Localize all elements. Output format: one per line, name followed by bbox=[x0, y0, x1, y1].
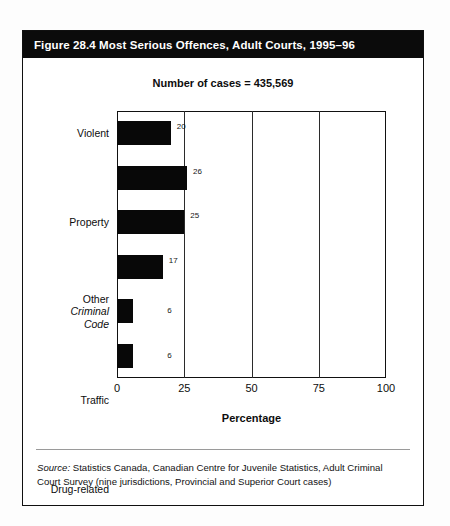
bar-value-label: 20 bbox=[177, 122, 186, 131]
x-axis-title: Percentage bbox=[117, 412, 386, 424]
source-divider bbox=[36, 449, 410, 450]
figure-title-bar: Figure 28.4 Most Serious Offences, Adult… bbox=[23, 31, 423, 58]
bar-traffic[interactable] bbox=[117, 255, 163, 279]
bar-violent[interactable] bbox=[117, 121, 171, 145]
x-tick-0: 0 bbox=[114, 382, 120, 394]
bar-value-label: 17 bbox=[169, 256, 178, 265]
bar-other-federal-status[interactable] bbox=[117, 344, 133, 368]
category-label-line: Code bbox=[17, 318, 109, 331]
bar-value-label: 6 bbox=[167, 306, 171, 315]
bar-row: 17Traffic bbox=[117, 245, 386, 290]
category-label-line: Criminal bbox=[17, 305, 109, 318]
chart-plot-area: 20Violent26Property25OtherCriminalCode17… bbox=[117, 111, 386, 378]
x-tick-100: 100 bbox=[377, 382, 395, 394]
bar-value-label: 25 bbox=[190, 211, 199, 220]
bar-row: 26Property bbox=[117, 156, 386, 201]
category-label-line: Violent bbox=[17, 127, 109, 140]
y-axis-label-violent: Violent bbox=[17, 127, 109, 140]
category-label-line: Property bbox=[17, 216, 109, 229]
bar-other-criminal-code[interactable] bbox=[117, 210, 184, 234]
category-label-line: Other bbox=[17, 293, 109, 306]
bar-row: 20Violent bbox=[117, 111, 386, 156]
y-axis-label-traffic: Traffic bbox=[17, 394, 109, 407]
figure-card: Figure 28.4 Most Serious Offences, Adult… bbox=[22, 30, 424, 506]
bar-row: 6Drug-related bbox=[117, 289, 386, 334]
source-body: Statistics Canada, Canadian Centre for J… bbox=[37, 462, 383, 487]
y-axis-label-other-criminal-code: OtherCriminalCode bbox=[17, 293, 109, 331]
bar-row: 25OtherCriminalCode bbox=[117, 200, 386, 245]
x-tick-75: 75 bbox=[313, 382, 325, 394]
x-tick-25: 25 bbox=[178, 382, 190, 394]
x-tick-50: 50 bbox=[245, 382, 257, 394]
bar-property[interactable] bbox=[117, 166, 187, 190]
bar-value-label: 26 bbox=[193, 167, 202, 176]
category-label-line: Traffic bbox=[17, 394, 109, 407]
x-axis-tick-labels: 0255075100 bbox=[117, 382, 386, 398]
bar-value-label: 6 bbox=[167, 351, 171, 360]
chart-subtitle: Number of cases = 435,569 bbox=[23, 77, 423, 89]
bar-drug-related[interactable] bbox=[117, 299, 133, 323]
source-note: Source: Statistics Canada, Canadian Cent… bbox=[37, 461, 407, 489]
y-axis-label-property: Property bbox=[17, 216, 109, 229]
source-label: Source: bbox=[37, 462, 70, 473]
page-title: Figure 28.4 Most Serious Offences, Adult… bbox=[23, 39, 355, 51]
bar-row: 6Other FederalStatus bbox=[117, 334, 386, 379]
